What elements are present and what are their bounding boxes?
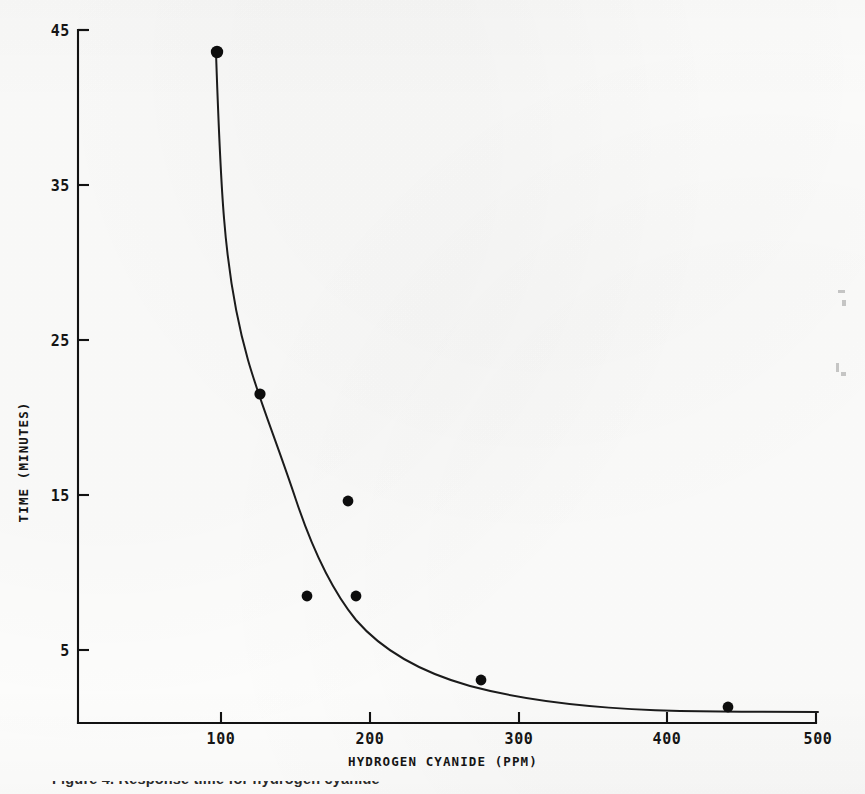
- y-axis-title: TIME (MINUTES): [16, 402, 31, 523]
- data-point-group: [211, 46, 734, 713]
- fitted-decay-curve: [216, 53, 818, 712]
- x-axis-ticks: [221, 712, 667, 723]
- data-point: [343, 496, 354, 507]
- x-tick-label-500: 500: [804, 730, 833, 748]
- y-tick-label-45: 45: [51, 22, 70, 40]
- figure-caption-strip: Figure 4. Response time for hydrogen cya…: [0, 781, 865, 794]
- x-axis-tick-labels: 100 200 300 400 500: [207, 730, 833, 748]
- chart-canvas: 45 35 25 15 5 100 200 300 400 500 HYDROG…: [0, 0, 865, 794]
- y-axis-ticks: [78, 30, 89, 650]
- x-tick-label-100: 100: [207, 730, 236, 748]
- figure-container: 45 35 25 15 5 100 200 300 400 500 HYDROG…: [0, 0, 865, 794]
- y-tick-label-25: 25: [51, 332, 70, 350]
- y-tick-label-15: 15: [51, 487, 70, 505]
- x-tick-label-200: 200: [356, 730, 385, 748]
- y-axis-tick-labels: 45 35 25 15 5: [51, 22, 70, 660]
- x-axis-title: HYDROGEN CYANIDE (PPM): [348, 754, 538, 769]
- data-point: [254, 388, 265, 399]
- figure-caption: Figure 4. Response time for hydrogen cya…: [52, 781, 380, 787]
- y-tick-label-35: 35: [51, 177, 70, 195]
- data-point: [302, 591, 313, 602]
- data-point: [351, 591, 362, 602]
- data-point: [476, 675, 487, 686]
- data-point: [723, 702, 734, 713]
- x-tick-label-400: 400: [653, 730, 682, 748]
- data-point: [211, 46, 223, 58]
- y-tick-label-5: 5: [60, 642, 70, 660]
- x-tick-label-300: 300: [505, 730, 534, 748]
